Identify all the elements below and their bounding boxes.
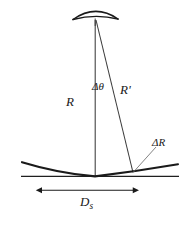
label-swath-width-subscript: s [89, 201, 93, 211]
diagram-canvas [0, 0, 196, 226]
label-nadir-range: R [66, 95, 74, 108]
label-slant-range-base: R [120, 82, 128, 97]
label-delta-r: ΔR [152, 137, 165, 148]
terrain-surface-curve [22, 162, 178, 176]
figure-container: R R' Δθ ΔR Ds [0, 0, 196, 226]
label-slant-range-prime: ' [128, 82, 131, 97]
label-delta-theta: Δθ [92, 81, 104, 92]
label-slant-range: R' [120, 83, 131, 96]
label-swath-width-base: D [80, 194, 89, 209]
label-swath-width: Ds [80, 195, 93, 211]
